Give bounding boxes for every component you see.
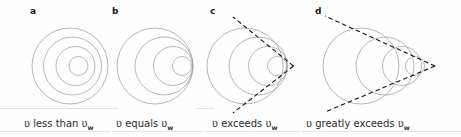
panel-d-wavefronts xyxy=(323,28,425,104)
panel-c-caption: ʋ exceeds ʋw xyxy=(212,118,277,132)
panel-d-caption-subscript: w xyxy=(404,124,410,132)
panel-a-caption-text: ʋ less than ʋ xyxy=(24,118,88,129)
panel-a: a ʋ less than ʋw xyxy=(24,6,108,132)
panel-c-letter: c xyxy=(210,6,215,16)
panel-b-caption-subscript: w xyxy=(167,124,173,132)
panel-a-caption: ʋ less than ʋw xyxy=(24,118,94,132)
panel-d-caption: ʋ greatly exceeds ʋw xyxy=(306,118,410,132)
panel-b-caption: ʋ equals ʋw xyxy=(116,118,173,132)
panel-b: b ʋ equals ʋw xyxy=(112,6,193,132)
panel-c-wavefronts xyxy=(207,28,288,104)
panel-c-mach-cone xyxy=(233,17,294,113)
panel-d-letter: d xyxy=(315,6,321,16)
panel-a-caption-subscript: w xyxy=(88,124,94,132)
panel-b-caption-text: ʋ equals ʋ xyxy=(116,118,167,129)
panel-a-letter: a xyxy=(30,6,36,16)
panel-c: c ʋ exceeds ʋw xyxy=(207,6,294,132)
panel-d-caption-text: ʋ greatly exceeds ʋ xyxy=(306,118,404,129)
panel-d-mach-cone xyxy=(325,16,435,112)
panel-b-wavefronts xyxy=(117,28,193,104)
figure-canvas: a ʋ less than ʋw b ʋ equals ʋw c xyxy=(0,0,461,137)
panel-c-caption-subscript: w xyxy=(271,124,277,132)
panel-c-caption-text: ʋ exceeds ʋ xyxy=(212,118,271,129)
panel-a-wavefronts xyxy=(32,28,108,104)
mach-wave-diagram: a ʋ less than ʋw b ʋ equals ʋw c xyxy=(0,0,461,137)
panel-d: d ʋ greatly exceeds ʋw xyxy=(306,6,435,132)
panel-b-letter: b xyxy=(112,6,119,16)
